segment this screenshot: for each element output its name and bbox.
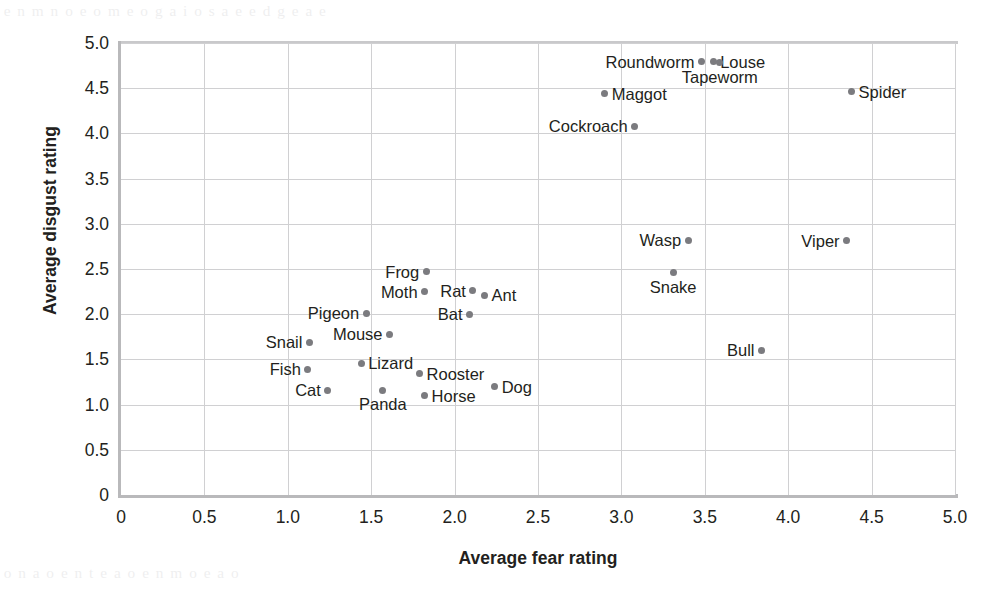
point-label: Tapeworm [682,69,758,86]
data-point [416,370,423,377]
data-point [421,392,428,399]
x-tick-label: 1.0 [265,507,311,528]
plot-area: RoundwormLouseTapewormMaggotSpiderCockro… [121,43,955,495]
point-label: Cockroach [549,118,628,135]
gridline-vertical [621,43,622,495]
x-axis-title: Average fear rating [121,548,955,569]
data-point [421,288,428,295]
x-tick-label: 3.0 [598,507,644,528]
point-label: Rat [440,282,466,299]
gridline-vertical [788,43,789,495]
data-point [670,269,677,276]
data-point [698,58,705,65]
data-point [685,237,692,244]
point-label: Mouse [333,326,383,343]
gridline-vertical [538,43,539,495]
x-tick-label: 1.5 [348,507,394,528]
x-tick-label: 4.0 [765,507,811,528]
x-tick-label: 2.0 [432,507,478,528]
point-label: Pigeon [308,305,359,322]
gridline-vertical [288,43,289,495]
data-point [481,292,488,299]
gridline-vertical [204,43,205,495]
data-point [631,123,638,130]
point-label: Rooster [427,366,485,383]
data-point [306,339,313,346]
gridline-vertical [371,43,372,495]
data-point [304,366,311,373]
data-point [466,311,473,318]
data-point [363,310,370,317]
point-label: Dog [502,378,532,395]
gridline-vertical [955,43,956,495]
data-point [324,387,331,394]
data-point [379,387,386,394]
y-axis-title: Average disgust rating [40,11,61,431]
point-label: Bull [727,342,755,359]
data-point [469,287,476,294]
point-label: Wasp [640,232,682,249]
gridline-vertical [455,43,456,495]
point-label: Frog [385,263,419,280]
data-point [358,360,365,367]
gridline-vertical [872,43,873,495]
y-axis-title-wrap: Average disgust rating [0,0,120,540]
data-point [601,90,608,97]
point-label: Horse [432,387,476,404]
point-label: Ant [492,287,517,304]
x-tick-label: 2.5 [515,507,561,528]
data-point [491,383,498,390]
point-label: Spider [859,84,907,101]
x-tick-label: 5.0 [932,507,978,528]
point-label: Maggot [612,85,667,102]
gridline-vertical [705,43,706,495]
point-label: Snake [650,279,697,296]
x-tick-label: 3.5 [682,507,728,528]
data-point [758,347,765,354]
point-label: Fish [270,361,301,378]
data-point [843,237,850,244]
point-label: Panda [359,396,407,413]
point-label: Lizard [368,355,413,372]
point-label: Viper [801,233,839,250]
page-bleed-top: a e n m n o e o m e o g a i o s a e e d … [0,3,1005,20]
data-point [423,268,430,275]
x-tick-label: 0.5 [181,507,227,528]
x-tick-label: 4.5 [849,507,895,528]
point-label: Snail [266,334,303,351]
data-point [848,88,855,95]
point-label: Moth [381,283,418,300]
point-label: Bat [438,306,463,323]
point-label: Cat [295,382,321,399]
data-point [386,331,393,338]
scatter-plot-figure: a e n m n o e o m e o g a i o s a e e d … [0,0,1005,592]
